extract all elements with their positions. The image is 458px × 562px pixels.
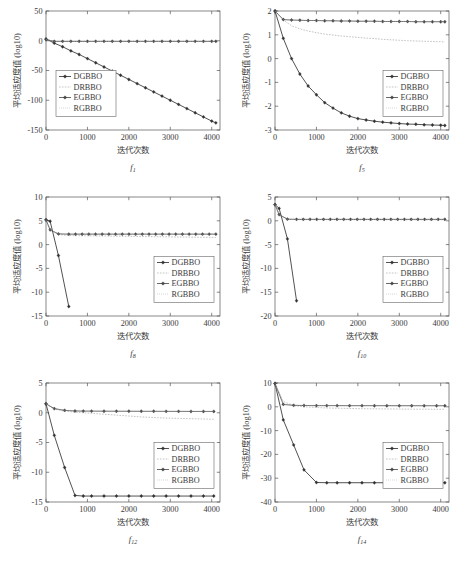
y-tick-label: -5: [265, 241, 272, 250]
x-tick-label: 4000: [204, 319, 220, 328]
chart-panel-f12: 50-5-10-1501000200030004000平均适应度值 (log10…: [0, 372, 229, 562]
y-tick-label: -1: [265, 78, 272, 87]
panel-caption: f12: [129, 534, 137, 545]
chart-panel-f8: 1050-5-10-1501000200030004000平均适应度值 (log…: [0, 186, 229, 372]
x-tick-label: 2000: [350, 133, 366, 142]
legend-label-DGBBO: DGBBO: [401, 258, 430, 267]
x-tick-label: 1000: [308, 319, 324, 328]
y-axis-label: 平均适应度值 (log10): [12, 33, 22, 108]
legend-label-EGBBO: EGBBO: [172, 465, 200, 474]
x-tick-label: 4000: [433, 505, 449, 514]
x-axis-label: 迭代次数: [346, 145, 379, 155]
x-tick-label: 1000: [308, 505, 324, 514]
y-tick-label: 0: [267, 403, 271, 412]
y-tick-label: 5: [267, 193, 271, 202]
legend: DGBBODRBBOEGBBORGBBO: [383, 71, 443, 117]
x-tick-label: 3000: [391, 133, 407, 142]
legend: DGBBODRBBOEGBBORGBBO: [154, 443, 214, 489]
y-tick-label: -10: [32, 288, 43, 297]
y-tick-label: 0: [267, 55, 271, 64]
plot-area-f12: 50-5-10-1501000200030004000平均适应度值 (log10…: [0, 372, 229, 558]
y-tick-label: -15: [32, 498, 43, 507]
plot-area-f1: 500-50-100-15001000200030004000平均适应度值 (l…: [0, 0, 229, 186]
x-tick-label: 0: [273, 505, 277, 514]
x-tick-label: 1000: [308, 133, 324, 142]
x-tick-label: 0: [273, 133, 277, 142]
x-tick-label: 3000: [162, 319, 178, 328]
panel-caption: f14: [358, 534, 366, 545]
legend-label-DRBBO: DRBBO: [401, 83, 429, 92]
y-axis-label: 平均适应度值 (log10): [241, 33, 251, 108]
y-tick-label: -20: [261, 312, 272, 321]
x-tick-label: 3000: [391, 505, 407, 514]
x-tick-label: 2000: [121, 319, 137, 328]
x-tick-label: 4000: [204, 505, 220, 514]
x-tick-label: 4000: [433, 133, 449, 142]
chart-panel-f14: 100-10-20-30-4001000200030004000平均适应度值 (…: [229, 372, 458, 562]
x-tick-label: 2000: [121, 133, 137, 142]
legend-label-DGBBO: DGBBO: [401, 72, 430, 81]
legend-label-RGBBO: RGBBO: [401, 290, 429, 299]
legend-label-RGBBO: RGBBO: [172, 290, 200, 299]
legend-label-DRBBO: DRBBO: [172, 269, 200, 278]
y-tick-label: 0: [38, 409, 42, 418]
y-tick-label: -10: [32, 468, 43, 477]
x-tick-label: 2000: [121, 505, 137, 514]
legend: DGBBODRBBOEGBBORGBBO: [383, 443, 443, 489]
legend-label-DGBBO: DGBBO: [74, 72, 103, 81]
x-tick-label: 0: [44, 133, 48, 142]
x-tick-label: 0: [44, 319, 48, 328]
legend-label-DGBBO: DGBBO: [401, 444, 430, 453]
y-tick-label: -50: [32, 66, 43, 75]
legend-label-RGBBO: RGBBO: [401, 476, 429, 485]
x-tick-label: 0: [44, 505, 48, 514]
y-tick-label: -15: [261, 288, 272, 297]
x-tick-label: 3000: [391, 319, 407, 328]
chart-panel-f5: 210-1-2-301000200030004000平均适应度值 (log10)…: [229, 0, 458, 186]
y-tick-label: 10: [34, 193, 42, 202]
x-tick-label: 0: [273, 319, 277, 328]
y-tick-label: -5: [36, 264, 43, 273]
legend: DGBBODRBBOEGBBORGBBO: [56, 71, 116, 117]
y-tick-label: 0: [38, 37, 42, 46]
x-axis-label: 迭代次数: [117, 331, 150, 341]
chart-panel-f1: 500-50-100-15001000200030004000平均适应度值 (l…: [0, 0, 229, 186]
legend-label-RGBBO: RGBBO: [74, 104, 102, 113]
legend-label-DRBBO: DRBBO: [74, 83, 102, 92]
y-tick-label: 5: [38, 217, 42, 226]
y-tick-label: -40: [261, 498, 272, 507]
x-tick-label: 1000: [79, 505, 95, 514]
legend-label-DRBBO: DRBBO: [401, 269, 429, 278]
y-tick-label: 2: [267, 7, 271, 16]
plot-area-f10: 50-5-10-15-2001000200030004000平均适应度值 (lo…: [229, 186, 458, 372]
panel-caption: f10: [358, 348, 366, 359]
legend-label-EGBBO: EGBBO: [401, 465, 429, 474]
figure-grid: 500-50-100-15001000200030004000平均适应度值 (l…: [0, 0, 458, 562]
legend: DGBBODRBBOEGBBORGBBO: [154, 257, 214, 303]
y-tick-label: 0: [267, 217, 271, 226]
plot-area-f14: 100-10-20-30-4001000200030004000平均适应度值 (…: [229, 372, 458, 558]
x-tick-label: 1000: [79, 133, 95, 142]
plot-area-f5: 210-1-2-301000200030004000平均适应度值 (log10)…: [229, 0, 458, 186]
x-axis-label: 迭代次数: [117, 145, 150, 155]
y-tick-label: -20: [261, 450, 272, 459]
y-tick-label: -5: [36, 438, 43, 447]
y-axis-label: 平均适应度值 (log10): [241, 405, 251, 480]
x-tick-label: 2000: [350, 319, 366, 328]
chart-panel-f10: 50-5-10-15-2001000200030004000平均适应度值 (lo…: [229, 186, 458, 372]
legend-label-EGBBO: EGBBO: [172, 279, 200, 288]
legend-label-RGBBO: RGBBO: [172, 476, 200, 485]
x-axis-label: 迭代次数: [346, 517, 379, 527]
y-tick-label: 10: [263, 379, 271, 388]
y-tick-label: -10: [261, 264, 272, 273]
y-tick-label: 1: [267, 31, 271, 40]
y-axis-label: 平均适应度值 (log10): [12, 219, 22, 294]
legend: DGBBODRBBOEGBBORGBBO: [383, 257, 443, 303]
x-tick-label: 3000: [162, 133, 178, 142]
y-axis-label: 平均适应度值 (log10): [12, 405, 22, 480]
legend-label-DRBBO: DRBBO: [401, 455, 429, 464]
y-tick-label: 5: [38, 379, 42, 388]
legend-label-EGBBO: EGBBO: [74, 93, 102, 102]
x-tick-label: 4000: [204, 133, 220, 142]
x-axis-label: 迭代次数: [346, 331, 379, 341]
